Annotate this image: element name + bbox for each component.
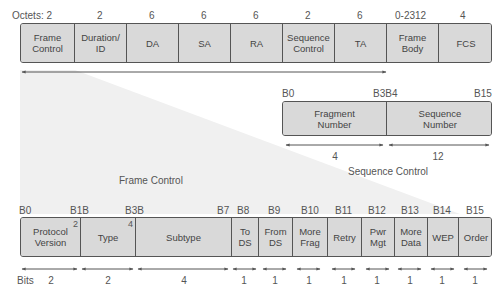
dimension-arrows: [0, 0, 503, 292]
